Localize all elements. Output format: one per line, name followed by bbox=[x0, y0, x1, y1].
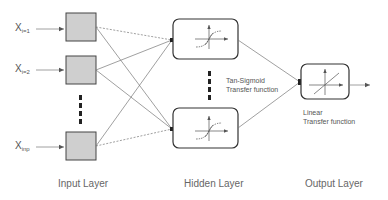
hidden-node-1 bbox=[173, 19, 238, 59]
input-ellipsis bbox=[79, 95, 82, 124]
input-layer-label: Input Layer bbox=[58, 178, 108, 189]
hidden-function-label: Tan-Sigmoid Transfer function bbox=[226, 76, 278, 94]
input-nodes bbox=[66, 13, 96, 160]
output-layer-label: Output Layer bbox=[305, 178, 363, 189]
hidden-node-2 bbox=[173, 108, 238, 148]
neural-network-diagram bbox=[0, 0, 388, 200]
input-arrows bbox=[36, 29, 64, 147]
input-hidden-connections bbox=[96, 27, 172, 146]
input-node-2 bbox=[66, 56, 96, 84]
input-node-1 bbox=[66, 13, 96, 41]
input-label-1: Xi=1 bbox=[15, 22, 30, 34]
input-node-n bbox=[66, 132, 96, 160]
input-label-2: Xi=2 bbox=[15, 63, 30, 75]
hidden-layer-label: Hidden Layer bbox=[184, 178, 243, 189]
output-node bbox=[301, 64, 349, 99]
input-label-n: Xinp bbox=[15, 140, 30, 152]
hidden-ellipsis bbox=[208, 71, 211, 100]
output-function-label: Linear Transfer function bbox=[303, 108, 355, 126]
